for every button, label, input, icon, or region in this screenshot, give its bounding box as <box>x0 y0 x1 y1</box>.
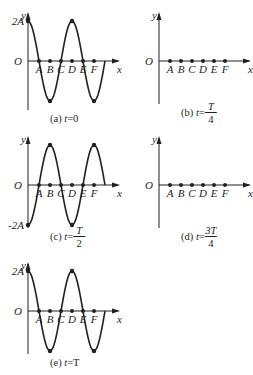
caption-b: (b) t= <box>181 107 205 119</box>
y-axis-label: y <box>151 9 157 21</box>
point-label-b: B <box>178 63 185 75</box>
origin-label: O <box>14 179 22 191</box>
point-label-b: B <box>47 187 54 199</box>
fraction-numerator: T <box>208 101 215 112</box>
antinode-dot <box>48 349 52 353</box>
point-label-c: C <box>57 313 65 325</box>
caption-d: (d) t= <box>181 231 205 243</box>
point-label-e: E <box>210 187 218 199</box>
point-label-d: D <box>198 63 207 75</box>
point-label-d: D <box>67 187 76 199</box>
panel-a: yxO2AABCDEF(a) t=0 <box>12 9 122 125</box>
y-axis-arrow-icon <box>157 136 162 144</box>
antinode-dot <box>48 99 52 103</box>
point-label-b: B <box>47 313 54 325</box>
point-label-a: A <box>166 187 174 199</box>
point-label-e: E <box>210 63 218 75</box>
caption-a: (a) t=0 <box>50 113 78 125</box>
antinode-dot <box>70 269 74 273</box>
x-axis-label: x <box>116 187 122 199</box>
antinode-dot <box>92 143 96 147</box>
antinode-dot <box>26 269 30 273</box>
point-label-a: A <box>35 63 43 75</box>
point-label-d: D <box>67 313 76 325</box>
point-label-f: F <box>90 63 98 75</box>
point-label-c: C <box>188 187 196 199</box>
y-axis-label: y <box>151 133 157 145</box>
antinode-dot <box>70 19 74 23</box>
origin-label: O <box>145 55 153 67</box>
panel-b: yxOABCDEF(b) t=T4 <box>145 9 253 125</box>
antinode-dot <box>48 143 52 147</box>
panel-c: yxO-2AABCDEF(c) t=T2 <box>8 133 122 249</box>
point-label-c: C <box>188 63 196 75</box>
point-label-c: C <box>57 63 65 75</box>
point-label-b: B <box>178 187 185 199</box>
amplitude-label: -2A <box>8 219 24 231</box>
x-axis-label: x <box>247 63 253 75</box>
fraction-numerator: 3T <box>204 225 217 236</box>
amplitude-label: 2A <box>12 15 25 27</box>
origin-label: O <box>14 55 22 67</box>
point-label-f: F <box>221 187 229 199</box>
panel-e: yxO2AABCDEF(e) t=T <box>12 259 122 369</box>
fraction-denominator: 2 <box>77 238 82 249</box>
point-label-f: F <box>90 313 98 325</box>
y-axis-arrow-icon <box>26 12 31 20</box>
point-label-d: D <box>67 63 76 75</box>
x-axis-label: x <box>116 313 122 325</box>
point-label-f: F <box>90 187 98 199</box>
point-label-a: A <box>166 63 174 75</box>
fraction-denominator: 4 <box>208 238 214 249</box>
antinode-dot <box>92 99 96 103</box>
antinode-dot <box>26 223 30 227</box>
x-axis-label: x <box>247 187 253 199</box>
caption-e: (e) t=T <box>50 357 80 369</box>
point-label-c: C <box>57 187 65 199</box>
point-label-a: A <box>35 313 43 325</box>
point-label-b: B <box>47 63 54 75</box>
y-axis-arrow-icon <box>26 262 31 270</box>
point-label-e: E <box>79 63 87 75</box>
panel-d: yxOABCDEF(d) t=3T4 <box>145 133 253 249</box>
point-label-e: E <box>79 313 87 325</box>
standing-wave-figure: yxO2AABCDEF(a) t=0yxOABCDEF(b) t=T4yxO-2… <box>0 0 253 375</box>
antinode-dot <box>70 223 74 227</box>
amplitude-label: 2A <box>12 265 25 277</box>
origin-label: O <box>14 305 22 317</box>
origin-label: O <box>145 179 153 191</box>
point-label-e: E <box>79 187 87 199</box>
antinode-dot <box>92 349 96 353</box>
point-label-f: F <box>221 63 229 75</box>
point-label-d: D <box>198 187 207 199</box>
fraction-denominator: 4 <box>208 114 214 125</box>
x-axis-label: x <box>116 63 122 75</box>
y-axis-label: y <box>20 133 26 145</box>
point-label-a: A <box>35 187 43 199</box>
y-axis-arrow-icon <box>157 12 162 20</box>
caption-c: (c) t= <box>50 231 73 243</box>
y-axis-arrow-icon <box>26 136 31 144</box>
fraction-numerator: T <box>76 225 83 236</box>
antinode-dot <box>26 19 30 23</box>
